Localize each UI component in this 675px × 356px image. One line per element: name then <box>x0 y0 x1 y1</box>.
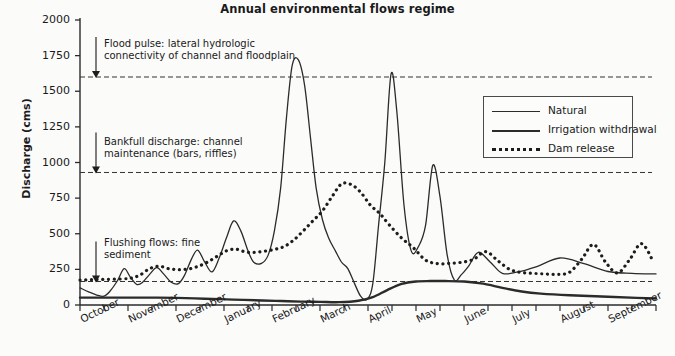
legend-label-dam-release: Dam release <box>548 142 614 154</box>
annotation-flushing-flows: Flushing flows: fine sediment <box>104 237 200 262</box>
y-tick-label: 500 <box>24 228 70 239</box>
y-tick-label: 750 <box>24 192 70 203</box>
legend-swatch-dam-release-icon <box>492 148 540 151</box>
y-tick-label: 1500 <box>24 85 70 96</box>
y-tick-label: 1000 <box>24 157 70 168</box>
y-tick-label: 1750 <box>24 50 70 61</box>
chart-figure: Annual environmental flows regime Discha… <box>0 0 675 356</box>
legend-label-natural: Natural <box>548 104 587 116</box>
series-natural <box>80 58 656 300</box>
annotation-flood-pulse: Flood pulse: lateral hydrologic connecti… <box>104 38 295 63</box>
y-tick-label: 1250 <box>24 121 70 132</box>
y-tick-label: 0 <box>24 299 70 310</box>
y-tick-label: 250 <box>24 263 70 274</box>
annotation-bankfull-discharge: Bankfull discharge: channel maintenance … <box>104 136 243 161</box>
legend-swatch-irrigation-withdrawal-icon <box>492 130 540 132</box>
legend: Natural Irrigation withdrawal Dam releas… <box>483 96 633 158</box>
series-dam-release <box>80 183 654 280</box>
legend-swatch-natural-icon <box>492 111 540 112</box>
y-tick-label: 2000 <box>24 14 70 25</box>
legend-label-irrigation-withdrawal: Irrigation withdrawal <box>548 123 657 135</box>
